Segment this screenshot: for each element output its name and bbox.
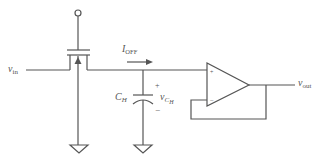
- opamp-buffer: + −: [207, 63, 249, 106]
- minus-sign: −: [155, 105, 160, 115]
- mosfet-switch: [67, 10, 90, 145]
- opamp-plus-sign: +: [210, 69, 214, 75]
- circuit-diagram: vin IOFF: [0, 0, 328, 165]
- ch-label: CH: [115, 91, 128, 104]
- hold-capacitor: [133, 70, 153, 145]
- ground-icon: [134, 145, 152, 153]
- ground-icon: [70, 145, 88, 153]
- gate-terminal-icon: [75, 10, 81, 16]
- plus-sign: +: [155, 81, 160, 90]
- opamp-minus-sign: −: [210, 97, 214, 105]
- vout-label: vout: [298, 77, 311, 90]
- ioff-label: IOFF: [121, 43, 138, 55]
- current-arrow-icon: [127, 59, 153, 65]
- vin-label: vin: [8, 63, 18, 76]
- feedback-wire: [191, 85, 266, 119]
- body-arrow-icon: [75, 57, 82, 64]
- vch-label: vCH: [160, 91, 174, 105]
